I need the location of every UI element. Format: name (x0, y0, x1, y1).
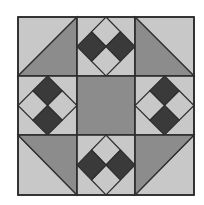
solid-square (77, 76, 135, 135)
edge-bottom (77, 135, 135, 195)
edge-right (135, 76, 194, 135)
quilt-block (0, 0, 204, 205)
quilt-block-drawing (0, 0, 204, 205)
corner-top-left (18, 17, 77, 76)
corner-bottom-right (135, 135, 194, 195)
center-square (77, 76, 135, 135)
edge-left (18, 76, 77, 135)
corner-top-right (135, 17, 194, 76)
corner-bottom-left (18, 135, 77, 195)
edge-top (77, 17, 135, 76)
